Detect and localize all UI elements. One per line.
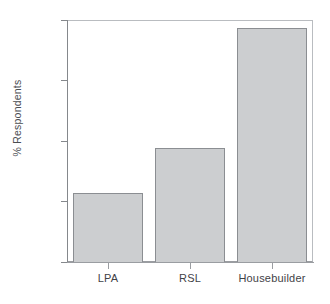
y-axis-title: % Respondents — [11, 68, 23, 168]
y-tick-mark — [61, 201, 68, 202]
y-tick-mark — [61, 141, 68, 142]
x-axis-line — [67, 262, 314, 263]
x-tick-label: Housebuilder — [212, 272, 330, 284]
y-axis-line — [67, 20, 68, 263]
x-tick-mark — [272, 263, 273, 269]
bar-rsl[interactable] — [155, 148, 225, 262]
x-tick-mark — [190, 263, 191, 269]
bar-housebuilder[interactable] — [237, 28, 307, 262]
y-tick-mark — [61, 80, 68, 81]
bar-chart: 100.075.050.025.00.0 % Respondents LPARS… — [0, 0, 330, 304]
bar-lpa[interactable] — [73, 193, 143, 262]
y-tick-mark — [61, 20, 68, 21]
x-tick-mark — [108, 263, 109, 269]
